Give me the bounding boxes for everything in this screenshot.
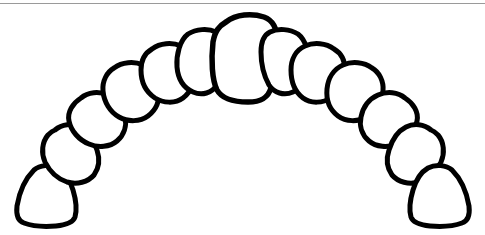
dental-arch-figure — [0, 0, 485, 235]
dental-arch-drawing — [0, 0, 485, 235]
tooth-right-second-molar[interactable] — [410, 166, 469, 227]
